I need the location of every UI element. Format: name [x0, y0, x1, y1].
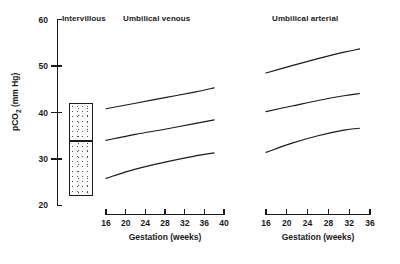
x-axis-tick-label: 24	[297, 218, 319, 228]
x-axis-tick	[125, 209, 126, 216]
centile-curve	[266, 49, 360, 73]
x-axis-tick	[204, 209, 205, 216]
x-axis-tick-label: 40	[213, 218, 235, 228]
x-axis-tick	[145, 209, 146, 216]
x-axis-tick	[307, 209, 308, 216]
x-axis-tick	[328, 209, 329, 216]
x-axis-tick-label: 28	[317, 218, 339, 228]
x-axis-tick-label: 16	[255, 218, 277, 228]
x-axis-tick	[369, 209, 370, 216]
figure-pco2-gestation: Intervillous Umbilical venous Umbilical …	[0, 0, 400, 264]
centile-curve	[106, 120, 214, 140]
centile-curve	[266, 128, 360, 152]
x-axis-tick	[184, 209, 185, 216]
x-axis-tick-label: 32	[338, 218, 360, 228]
centile-curve	[266, 93, 360, 111]
x-axis-tick	[223, 209, 224, 216]
x-axis-title-arterial: Gestation (weeks)	[266, 232, 370, 242]
x-axis-tick	[286, 209, 287, 216]
x-axis-tick	[349, 209, 350, 216]
centile-curve	[106, 153, 214, 179]
x-axis-line-arterial	[266, 214, 370, 215]
x-axis-title-venous: Gestation (weeks)	[106, 232, 224, 242]
x-axis-tick-label: 20	[276, 218, 298, 228]
x-axis-tick-label: 36	[359, 218, 381, 228]
x-axis-tick	[164, 209, 165, 216]
x-axis-tick	[265, 209, 266, 216]
centile-curve	[106, 88, 214, 109]
x-axis-tick	[105, 209, 106, 216]
